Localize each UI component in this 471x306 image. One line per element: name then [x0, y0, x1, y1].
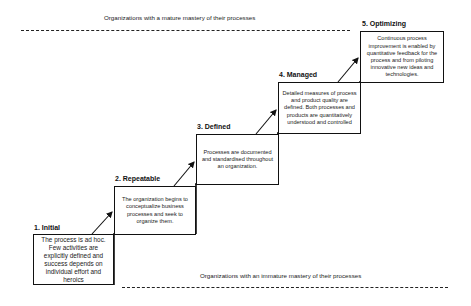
stage-1-box: The process is ad hoc. Few activities ar… — [33, 234, 114, 285]
stage-5-description: Continuous process improvement is enable… — [364, 35, 440, 78]
stage-5-title: 5. Optimizing — [362, 20, 406, 27]
stage-4-title: 4. Managed — [279, 71, 317, 78]
stage-4-description: Detailed measures of process and product… — [282, 90, 357, 126]
stage-5-box: Continuous process improvement is enable… — [360, 31, 444, 83]
stage-2-box: The organization begins to conceptualize… — [114, 186, 196, 235]
arrow-3-to-4 — [256, 110, 276, 134]
stage-3-description: Processes are documented and standardise… — [200, 149, 275, 171]
stage-2-description: The organization begins to conceptualize… — [118, 196, 192, 225]
stage-3-title: 3. Defined — [197, 123, 230, 130]
stage-2-title: 2. Repeatable — [115, 175, 160, 182]
arrow-1-to-2 — [92, 212, 112, 234]
stage-1-description: The process is ad hoc. Few activities ar… — [37, 236, 110, 284]
stage-3-box: Processes are documented and standardise… — [196, 134, 279, 185]
stage-1-title: 1. Initial — [34, 224, 60, 231]
arrow-4-to-5 — [338, 58, 358, 82]
arrow-2-to-3 — [174, 162, 194, 186]
stage-4-box: Detailed measures of process and product… — [278, 82, 361, 134]
